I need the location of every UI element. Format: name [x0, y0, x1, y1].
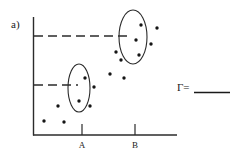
data-point [155, 26, 158, 29]
data-point [139, 23, 142, 26]
data-point [56, 104, 59, 107]
data-point [83, 76, 86, 79]
data-point [88, 104, 91, 107]
gamma-answer-label: Γ= [177, 81, 190, 93]
data-point [114, 50, 117, 53]
data-point [92, 85, 95, 88]
data-point [122, 76, 125, 79]
x-tick-label-a: A [79, 140, 86, 150]
scatter-chart: a) A B Γ= [0, 0, 235, 156]
figure-panel: a) A B Γ= [0, 0, 235, 156]
data-points-group [42, 23, 158, 123]
data-point [134, 38, 137, 41]
data-point [62, 120, 65, 123]
cluster-ellipse-lower [68, 64, 90, 112]
data-point [149, 42, 152, 45]
data-point [108, 72, 111, 75]
panel-label: a) [11, 18, 20, 31]
data-point [77, 99, 80, 102]
x-tick-label-b: B [132, 140, 138, 150]
data-point [42, 119, 45, 122]
data-point [137, 53, 140, 56]
cluster-ellipse-upper [119, 10, 147, 64]
data-point [119, 58, 122, 61]
